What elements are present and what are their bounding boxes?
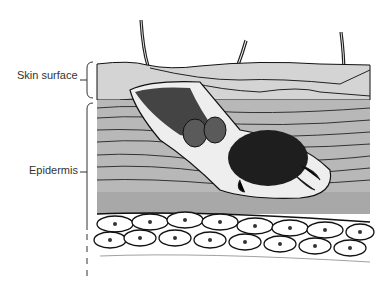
- granular-layer: [97, 192, 370, 214]
- skin-illustration: [0, 0, 386, 281]
- mite-egg: [204, 117, 226, 143]
- label-brackets: [80, 62, 93, 276]
- mite-egg: [183, 119, 207, 147]
- cell-layer: [94, 212, 374, 256]
- epidermis-label: Epidermis: [29, 164, 78, 176]
- mite-body: [228, 130, 308, 186]
- skin-surface-label: Skin surface: [17, 69, 78, 81]
